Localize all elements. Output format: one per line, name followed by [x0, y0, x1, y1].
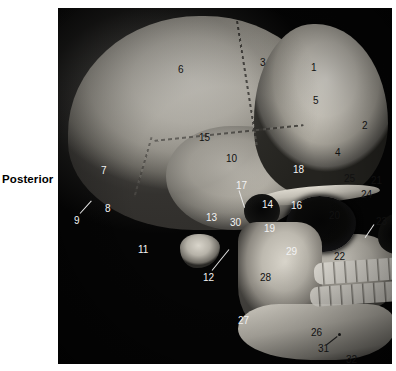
callout-number-10: 10 [226, 154, 237, 164]
callout-number-4: 4 [335, 148, 341, 158]
callout-number-22: 22 [334, 252, 345, 262]
frontal-bone-shape [254, 24, 388, 196]
callout-number-23: 23 [376, 217, 387, 227]
callout-number-16: 16 [291, 201, 302, 211]
callout-number-31: 31 [318, 344, 329, 354]
callout-number-8: 8 [105, 204, 111, 214]
callout-number-12: 12 [203, 273, 214, 283]
occipital-bone-shape [60, 62, 210, 242]
callout-number-18: 18 [293, 165, 304, 175]
callout-number-2: 2 [362, 121, 368, 131]
mandibular-ramus-shape [238, 222, 322, 332]
leader-17 [239, 190, 246, 207]
callout-number-20: 20 [329, 211, 340, 221]
callout-number-1: 1 [311, 63, 317, 73]
callout-number-7: 7 [101, 166, 107, 176]
callout-number-13: 13 [206, 213, 217, 223]
photo-vignette [58, 8, 392, 364]
leader-12 [212, 249, 230, 271]
squamosal-suture-line [154, 124, 303, 142]
callout-number-9: 9 [74, 216, 80, 226]
upper-teeth-row [313, 257, 392, 285]
mental-foramen-dot [338, 333, 341, 336]
mastoid-process-shape [180, 234, 220, 268]
cranial-vault-shape [68, 16, 336, 230]
callout-number-14: 14 [262, 200, 273, 210]
callout-number-3: 3 [260, 58, 266, 68]
figure-root: Posterior 123456789101112131415161718192… [0, 0, 396, 371]
coronal-suture-line [236, 21, 258, 148]
callout-number-26: 26 [311, 328, 322, 338]
callout-number-15: 15 [199, 133, 210, 143]
callout-number-17: 17 [236, 181, 247, 191]
callout-number-11: 11 [138, 245, 148, 255]
maxilla-shape [298, 234, 392, 310]
lower-teeth-row [309, 281, 392, 307]
callout-number-30: 30 [230, 218, 241, 228]
callout-number-21: 21 [371, 176, 382, 186]
callout-number-32: 32 [346, 355, 357, 364]
skull-photograph-panel: 1234567891011121314151617181920212223242… [58, 8, 392, 364]
callout-number-6: 6 [178, 65, 184, 75]
callout-number-28: 28 [260, 273, 271, 283]
leader-23 [365, 224, 375, 238]
callout-number-27: 27 [238, 316, 249, 326]
callout-number-5: 5 [313, 96, 319, 106]
lambdoid-suture-line [133, 137, 152, 197]
leader-9 [80, 201, 92, 214]
callout-number-24: 24 [361, 190, 372, 200]
callout-number-19: 19 [264, 224, 275, 234]
callout-number-25: 25 [344, 174, 355, 184]
callout-number-29: 29 [286, 247, 297, 257]
temporal-bone-shape [166, 126, 314, 230]
orientation-label-posterior: Posterior [2, 173, 53, 185]
